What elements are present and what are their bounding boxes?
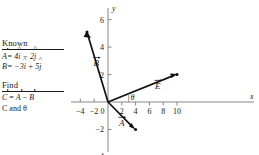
- i-hat-b: i: [24, 62, 26, 73]
- panel-spacer: [2, 73, 68, 80]
- vector-e-label: E: [154, 81, 161, 91]
- vector-c-symbol: C: [2, 93, 7, 104]
- minus-sign: −: [23, 93, 28, 102]
- y-axis-label: y: [111, 4, 116, 13]
- y-tick-label--4: −4: [95, 152, 104, 155]
- equation-a-part1: = 4: [7, 52, 18, 61]
- vector-e: E: [108, 73, 179, 102]
- unknowns-text: C and θ: [2, 104, 68, 115]
- y-axis-ticks: [108, 20, 112, 155]
- equation-vector-b: B= −3i + 5j: [2, 62, 68, 73]
- equation-vector-c: C = A − B: [2, 93, 68, 104]
- vector-e-endpoint: [176, 73, 179, 76]
- vector-b-label: B: [94, 58, 100, 68]
- y-tick-label--2: −2: [95, 125, 104, 134]
- given-find-panel: Known A= 4i − 2j B= −3i + 5j Find C = A …: [2, 38, 68, 114]
- vector-a-label: A: [118, 118, 125, 128]
- equals-sign: =: [9, 93, 14, 102]
- vector-b: B: [84, 31, 108, 103]
- x-tick-label-10: 10: [173, 107, 181, 116]
- vector-b-symbol-find: B: [29, 93, 34, 104]
- x-tick-label-4: 4: [134, 107, 138, 116]
- origin-label: 0: [101, 107, 105, 116]
- equation-b-part2: + 5: [28, 62, 39, 71]
- x-tick-label-6: 6: [147, 107, 151, 116]
- angle-theta: θ: [129, 93, 135, 103]
- j-hat-a: j: [34, 52, 36, 63]
- figure-root: Known A= 4i − 2j B= −3i + 5j Find C = A …: [0, 0, 259, 155]
- vector-a-endpoint: [134, 128, 137, 131]
- theta-label: θ: [131, 93, 135, 102]
- vector-diagram: −4 −2 0 2 4 6 8 10 6 4 2 −2 −4 x: [68, 0, 259, 155]
- i-hat-a: i: [18, 52, 20, 63]
- equation-vector-a: A= 4i − 2j: [2, 52, 68, 63]
- find-heading: Find: [2, 80, 68, 90]
- x-axis-label: x: [249, 92, 254, 101]
- equation-b-part1: = −3: [7, 62, 24, 71]
- vector-a-symbol-find: A: [16, 93, 21, 104]
- vector-a-symbol: A: [2, 52, 7, 63]
- x-tick-label--4: −4: [76, 107, 85, 116]
- vector-e-shaft: [108, 75, 174, 102]
- y-tick-label-6: 6: [100, 16, 104, 25]
- x-tick-label-8: 8: [161, 107, 165, 116]
- y-tick-label-4: 4: [100, 43, 104, 52]
- vector-b-endpoint: [86, 31, 89, 34]
- x-tick-label--2: −2: [90, 107, 99, 116]
- j-hat-b: j: [39, 62, 41, 73]
- vector-b-label-arrowhead: [99, 56, 101, 58]
